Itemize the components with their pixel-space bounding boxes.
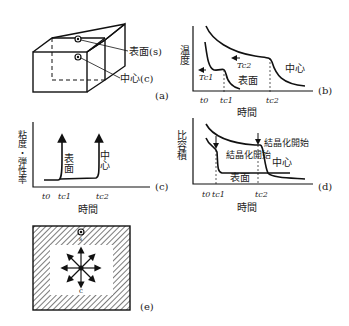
tick-t0-c: t0 — [42, 192, 50, 201]
ylabel-d: 比容積 — [176, 130, 187, 161]
panel-label-a: (a) — [155, 90, 169, 101]
tick-tc2-d: tc2 — [255, 190, 268, 199]
surface-label-a: 表面(s) — [129, 45, 162, 57]
surface-label-c: 表面 — [63, 152, 74, 174]
surface-label-b: 表面 — [238, 74, 258, 86]
panel-label-c: (c) — [155, 181, 169, 192]
center-point-e — [79, 266, 84, 271]
tick-tc1-d: tc1 — [212, 190, 225, 199]
s-label-e: s — [79, 235, 82, 242]
tick-tc2-c: tc2 — [96, 192, 109, 201]
c-label-e: c — [79, 287, 83, 295]
tc1-label-b: Tc1 — [199, 73, 213, 82]
xlabel-b: 時間 — [237, 107, 257, 118]
center-label-a: 中心(c) — [120, 72, 154, 84]
tick-tc1-c: tc1 — [58, 192, 71, 201]
tick-t0-d: t0 — [202, 190, 210, 199]
ylabel-b: 温度 — [179, 45, 190, 66]
center-label-b: 中心 — [285, 62, 305, 74]
tick-tc1-b: tc1 — [220, 96, 233, 105]
xlabel-c: 時間 — [78, 204, 98, 215]
panel-label-d: (d) — [318, 181, 332, 192]
center-label-c: 中心 — [99, 149, 110, 170]
figure-canvas: 表面(s) 中心(c) (a) Tc1 Tc2 表面 中心 温度 t0 tc1 … — [0, 0, 349, 326]
tick-t0-b: t0 — [200, 96, 208, 105]
cryst-start-inner-label: 結晶化開始 — [226, 149, 271, 160]
ylabel-c: 粘度・弾性率 — [17, 129, 27, 185]
panel-label-b: (b) — [318, 85, 332, 96]
panel-c-axes — [33, 122, 150, 187]
panel-label-e: (e) — [140, 301, 154, 312]
tick-tc2-b: tc2 — [266, 96, 279, 105]
xlabel-d: 時間 — [237, 202, 257, 213]
cryst-start-outer-label: 結晶化開始 — [264, 137, 309, 148]
center-label-d: 中心 — [272, 156, 292, 168]
tc2-label-b: Tc2 — [237, 61, 251, 70]
surface-label-d: 表面 — [230, 171, 250, 183]
